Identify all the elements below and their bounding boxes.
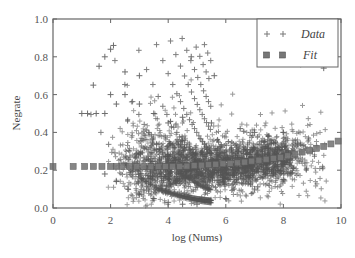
y-tick-label: 0.2	[34, 164, 48, 176]
x-tick-label: 2	[108, 214, 114, 226]
fit-marker	[285, 153, 291, 159]
fit-marker	[155, 163, 161, 169]
fit-marker	[220, 161, 226, 167]
legend-box	[257, 19, 338, 67]
x-tick-label: 4	[165, 214, 171, 226]
fit-marker	[148, 163, 154, 169]
fit-marker	[113, 163, 119, 169]
fit-marker	[314, 145, 320, 151]
x-tick-label: 10	[336, 214, 348, 226]
y-tick-label: 1.0	[34, 13, 48, 25]
fit-marker	[141, 163, 147, 169]
fit-marker	[328, 141, 334, 147]
fit-marker	[82, 163, 88, 169]
fit-marker	[263, 156, 269, 162]
legend-label-data: Data	[300, 27, 325, 41]
fit-marker	[184, 163, 190, 169]
fit-marker	[242, 159, 248, 165]
x-axis-label: log (Nums)	[172, 231, 223, 244]
fit-marker	[134, 163, 140, 169]
fit-marker	[292, 151, 298, 157]
fit-marker	[206, 162, 212, 168]
scatter-chart: 0246810 0.00.20.40.60.81.0 log (Nums) Ne…	[0, 0, 355, 258]
fit-marker	[198, 162, 204, 168]
fit-marker	[270, 155, 276, 161]
fit-marker	[278, 154, 284, 160]
fit-marker	[256, 157, 262, 163]
fit-marker	[335, 138, 341, 144]
fit-marker	[227, 160, 233, 166]
x-tick-label: 0	[50, 214, 56, 226]
fit-marker	[306, 147, 312, 153]
fit-marker	[177, 163, 183, 169]
fit-marker	[234, 160, 240, 166]
fit-marker	[191, 163, 197, 169]
fit-marker	[90, 163, 96, 169]
fit-marker	[213, 161, 219, 167]
y-tick-label: 0.0	[34, 202, 48, 214]
y-axis-label: Negrate	[10, 95, 22, 130]
fit-marker	[70, 163, 76, 169]
fit-marker	[126, 163, 132, 169]
fit-marker	[162, 163, 168, 169]
fit-marker	[321, 143, 327, 149]
x-tick-label: 6	[223, 214, 229, 226]
fit-marker	[108, 163, 114, 169]
legend-label-fit: Fit	[302, 48, 318, 62]
y-tick-label: 0.6	[34, 89, 48, 101]
y-tick-label: 0.4	[34, 126, 48, 138]
fit-marker	[299, 149, 305, 155]
fit-marker	[99, 163, 105, 169]
legend: Data Fit	[257, 19, 338, 67]
y-tick-label: 0.8	[34, 51, 48, 63]
fit-marker	[119, 163, 125, 169]
x-tick-label: 8	[281, 214, 287, 226]
fit-marker	[170, 163, 176, 169]
fit-marker	[249, 158, 255, 164]
